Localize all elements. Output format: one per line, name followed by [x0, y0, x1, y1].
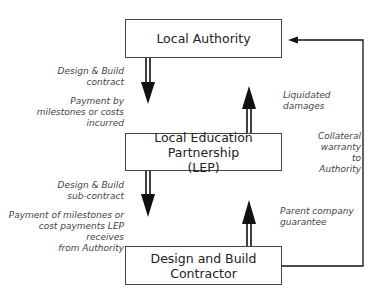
label-payment-by-milestones: Payment by milestones or costs incurred — [37, 96, 124, 129]
label-line: Design & Build — [58, 66, 124, 77]
label-line: Parent company — [280, 206, 354, 217]
label-line: cost payments LEP receives — [0, 221, 124, 243]
label-line: Payment by — [37, 96, 124, 107]
label-parent-company-guarantee: Parent company guarantee — [280, 206, 354, 228]
arrow-lep-to-contractor — [141, 171, 155, 217]
label-collateral-warranty: Collateral warranty to Authority — [318, 131, 361, 175]
label-line: milestones or costs — [37, 107, 124, 118]
label-line: Design & Build — [58, 180, 124, 191]
arrow-authority-to-lep — [141, 58, 155, 104]
label-line: guarantee — [280, 217, 354, 228]
label-line: damages — [283, 101, 330, 112]
node-label: Design and Build Contractor — [126, 251, 281, 281]
label-liquidated-damages: Liquidated damages — [283, 90, 330, 112]
node-design-build-contractor: Design and Build Contractor — [125, 246, 282, 285]
arrow-lep-to-authority — [242, 86, 256, 133]
label-line: Payment of milestones or — [0, 210, 124, 221]
label-payment-of-milestones: Payment of milestones or cost payments L… — [0, 210, 124, 254]
node-label-line2: (LEP) — [187, 160, 219, 175]
label-line: warranty — [318, 142, 361, 153]
label-design-build-sub-contract: Design & Build sub-contract — [58, 180, 124, 202]
label-line: to — [318, 153, 361, 164]
label-line: Collateral — [318, 131, 361, 142]
label-line: contract — [58, 77, 124, 88]
label-line: Liquidated — [283, 90, 330, 101]
label-line: Authority — [318, 164, 361, 175]
label-design-build-contract: Design & Build contract — [58, 66, 124, 88]
label-line: incurred — [37, 118, 124, 129]
arrow-contractor-to-lep — [242, 200, 256, 246]
label-line: from Authority — [0, 243, 124, 254]
node-lep: Local Education Partnership (LEP) — [125, 133, 282, 171]
node-local-authority: Local Authority — [125, 19, 282, 58]
node-label-line1: Local Education Partnership — [126, 130, 281, 160]
label-line: sub-contract — [58, 191, 124, 202]
node-label: Local Authority — [156, 31, 250, 46]
